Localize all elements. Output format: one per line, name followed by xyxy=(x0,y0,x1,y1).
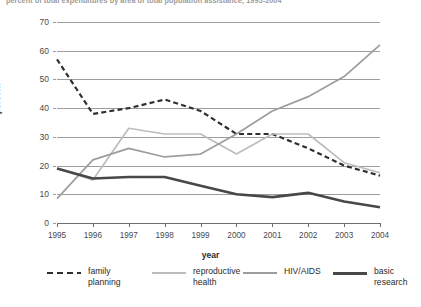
legend-label: family planning xyxy=(88,266,121,287)
x-tick-mark xyxy=(93,223,94,227)
y-tick-mark xyxy=(53,108,56,109)
y-tick-mark xyxy=(53,166,56,167)
x-tick-mark xyxy=(272,223,273,227)
legend-label: basic research xyxy=(374,266,407,287)
plot-area xyxy=(57,22,380,223)
x-tick-mark xyxy=(129,223,130,227)
y-tick-label: 30 xyxy=(27,132,49,142)
series-line-basic-research xyxy=(57,168,380,207)
x-tick-label: 1995 xyxy=(48,231,66,240)
y-tick-mark xyxy=(53,22,56,23)
y-tick-label: 40 xyxy=(27,103,49,113)
y-tick-mark xyxy=(53,194,56,195)
series-line-family-planning xyxy=(57,59,380,175)
legend-label: HIV/AIDS xyxy=(284,266,321,277)
x-tick-mark xyxy=(201,223,202,227)
y-tick-mark xyxy=(53,51,56,52)
x-tick-label: 1997 xyxy=(120,231,138,240)
x-tick-mark xyxy=(236,223,237,227)
x-tick-label: 1999 xyxy=(191,231,209,240)
chart-legend: family planningreproductive healthHIV/AI… xyxy=(0,267,421,307)
legend-label: reproductive health xyxy=(193,266,240,287)
x-tick-mark xyxy=(165,223,166,227)
chart-title: percent of total expenditures by area of… xyxy=(6,0,282,5)
legend-swatch xyxy=(152,272,186,274)
chart-title-strip: percent of total expenditures by area of… xyxy=(0,0,421,9)
x-tick-label: 1998 xyxy=(156,231,174,240)
y-tick-mark xyxy=(53,137,56,138)
x-tick-label: 2000 xyxy=(227,231,245,240)
y-tick-label: 50 xyxy=(27,74,49,84)
x-axis-line xyxy=(57,223,380,224)
x-tick-label: 2003 xyxy=(335,231,353,240)
x-tick-mark xyxy=(308,223,309,227)
y-tick-mark xyxy=(53,223,56,224)
y-tick-label: 70 xyxy=(27,17,49,27)
series-lines xyxy=(57,22,380,223)
legend-swatch xyxy=(333,272,367,275)
legend-swatch xyxy=(47,272,81,274)
x-tick-label: 1996 xyxy=(84,231,102,240)
x-axis-label: year xyxy=(0,250,421,260)
x-tick-label: 2004 xyxy=(371,231,389,240)
x-tick-mark xyxy=(344,223,345,227)
x-tick-mark xyxy=(380,223,381,227)
series-line-reproductive-health xyxy=(57,128,380,180)
x-tick-label: 2002 xyxy=(299,231,317,240)
y-tick-label: 0 xyxy=(27,218,49,228)
y-tick-mark xyxy=(53,79,56,80)
x-tick-label: 2001 xyxy=(263,231,281,240)
y-axis-label: percent xyxy=(0,83,2,114)
x-tick-mark xyxy=(57,223,58,227)
y-tick-label: 10 xyxy=(27,189,49,199)
y-tick-label: 60 xyxy=(27,46,49,56)
legend-swatch xyxy=(243,272,277,274)
chart-container: 010203040506070 percent 1995199619971998… xyxy=(0,9,421,307)
y-tick-label: 20 xyxy=(27,161,49,171)
